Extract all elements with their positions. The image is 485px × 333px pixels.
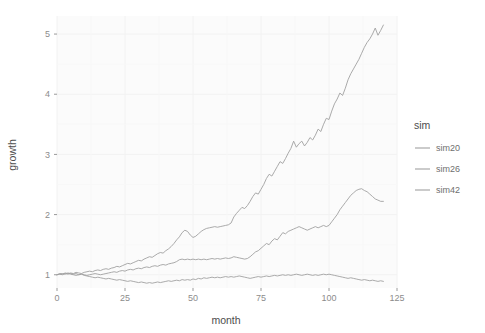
legend-item-sim42[interactable]: sim42: [414, 182, 478, 198]
legend: sim20sim26sim42: [414, 140, 478, 198]
x-tick-label: 25: [120, 293, 130, 303]
x-tick-label: 50: [188, 293, 198, 303]
legend-item-label: sim20: [436, 143, 460, 153]
legend-item-sim20[interactable]: sim20: [414, 140, 478, 156]
line-chart: 0255075100125 12345 month growth sim sim…: [0, 0, 485, 333]
legend-item-label: sim26: [436, 164, 460, 174]
y-tick-label: 2: [45, 210, 50, 220]
y-tick-label: 3: [45, 150, 50, 160]
y-tick-label: 1: [45, 270, 50, 280]
y-tick-label: 4: [45, 89, 50, 99]
x-tick-label: 75: [256, 293, 266, 303]
x-tick-label: 0: [54, 293, 59, 303]
x-tick-label: 125: [389, 293, 404, 303]
chart-container: 0255075100125 12345 month growth sim sim…: [0, 0, 485, 333]
legend-item-label: sim42: [436, 185, 460, 195]
legend-title: sim: [414, 119, 431, 131]
legend-item-sim26[interactable]: sim26: [414, 161, 478, 177]
y-axis-title: growth: [6, 139, 18, 171]
y-tick-label: 5: [45, 29, 50, 39]
x-axis-title: month: [211, 314, 240, 326]
x-tick-label: 100: [321, 293, 336, 303]
